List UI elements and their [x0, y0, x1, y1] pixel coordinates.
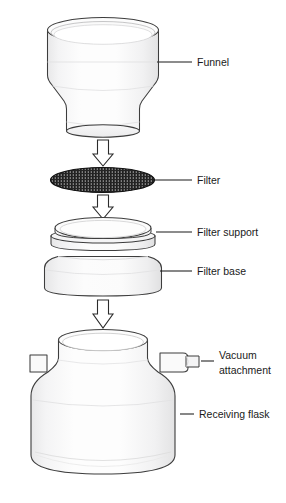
filter-support-seat-inner — [60, 220, 146, 237]
part-filter-support — [51, 218, 155, 251]
filtration-apparatus-diagram: Funnel Filter Filter support Filter base… — [0, 0, 286, 503]
label-filter-base: Filter base — [197, 265, 246, 277]
label-vacuum-attachment-line1: Vacuum — [219, 349, 257, 361]
flask-right-tab — [160, 353, 188, 372]
label-funnel: Funnel — [197, 56, 229, 68]
label-receiving-flask: Receiving flask — [199, 408, 270, 420]
funnel-bore-opening — [54, 25, 152, 45]
flask-neck-rim-inner — [63, 333, 144, 351]
label-filter: Filter — [197, 174, 221, 186]
label-vacuum-attachment-line2: attachment — [219, 364, 271, 376]
filter-base-body — [45, 257, 162, 297]
flask-left-tab — [30, 355, 47, 372]
funnel-bottom-rim — [67, 125, 140, 137]
vacuum-attachment-nozzle — [186, 356, 199, 367]
part-filter-base — [45, 257, 162, 297]
label-filter-support: Filter support — [197, 226, 258, 238]
